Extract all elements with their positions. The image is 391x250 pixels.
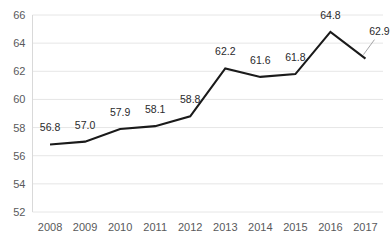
data-point-label: 61.8 <box>285 51 306 63</box>
x-axis-tick-label: 2017 <box>353 221 377 233</box>
y-axis-tick-label: 58 <box>13 122 25 134</box>
data-point-label: 58.8 <box>180 93 201 105</box>
x-axis-tick-label: 2008 <box>38 221 62 233</box>
data-point-label: 57.9 <box>110 106 131 118</box>
data-point-label: 62.2 <box>215 45 236 57</box>
y-axis-tick-label: 62 <box>13 65 25 77</box>
x-axis-tick-label: 2015 <box>283 221 307 233</box>
data-point-label: 57.0 <box>75 119 96 131</box>
x-axis-tick-label: 2012 <box>178 221 202 233</box>
line-chart: 6664626058565452 20082009201020112012201… <box>0 0 391 250</box>
y-axis-tick-label: 64 <box>13 37 25 49</box>
chart-canvas: 6664626058565452 20082009201020112012201… <box>0 0 391 250</box>
data-point-label: 61.6 <box>250 54 271 66</box>
x-axis-tick-label: 2011 <box>143 221 167 233</box>
x-axis-tick-label: 2010 <box>108 221 132 233</box>
y-axis-tick-label: 56 <box>13 150 25 162</box>
data-point-label: 58.1 <box>145 103 166 115</box>
data-point-label: 62.9 <box>369 25 390 37</box>
data-point-label: 56.8 <box>40 121 61 133</box>
x-axis-tick-label: 2009 <box>73 221 97 233</box>
x-axis-tick-label: 2016 <box>318 221 342 233</box>
x-axis-tick-label: 2013 <box>213 221 237 233</box>
y-axis-tick-label: 60 <box>13 93 25 105</box>
y-axis-tick-label: 66 <box>13 9 25 21</box>
data-point-label: 64.8 <box>320 9 341 21</box>
y-axis-tick-label: 52 <box>13 206 25 218</box>
y-axis-tick-label: 54 <box>13 178 25 190</box>
x-axis-tick-label: 2014 <box>248 221 272 233</box>
